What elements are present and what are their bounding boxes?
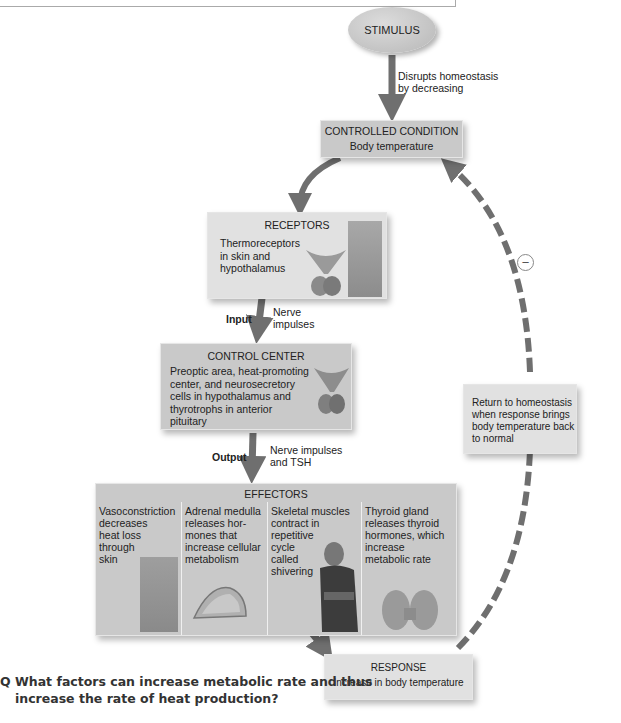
- question-marker: Q: [0, 673, 15, 690]
- controlled-condition-text: Body temperature: [321, 140, 462, 152]
- receptors-text: Thermoreceptors in skin and hypothalamus: [220, 237, 300, 275]
- control-center-text: Preoptic area, heat-promoting center, an…: [170, 365, 309, 428]
- feedback-box: Return to homeostasis when response brin…: [463, 384, 577, 454]
- response-title: RESPONSE: [325, 662, 472, 673]
- shivering-person-image: [316, 540, 360, 632]
- feedback-text: Return to homeostasis when response brin…: [472, 397, 574, 445]
- pituitary-image: [304, 248, 349, 298]
- effectors-box: EFFECTORS Vasoconstriction decreases hea…: [95, 483, 457, 636]
- control-center-title: CONTROL CENTER: [161, 350, 351, 362]
- effector-vasoconstriction: Vasoconstriction decreases heat loss thr…: [96, 502, 181, 635]
- controlled-condition-title: CONTROLLED CONDITION: [321, 125, 462, 137]
- skin-image: [140, 557, 178, 632]
- controlled-condition-box: CONTROLLED CONDITION Body temperature: [320, 120, 463, 158]
- arrow-condition-to-receptors: [300, 158, 340, 205]
- output-label: Output: [212, 451, 246, 463]
- control-center-box: CONTROL CENTER Preoptic area, heat-promo…: [160, 343, 352, 430]
- effector-thyroid-gland: Thyroid gland releases thyroid hormones,…: [362, 502, 457, 635]
- input-arrow-text: Nerve impulses: [273, 306, 314, 330]
- receptors-box: RECEPTORS Thermoreceptors in skin and hy…: [207, 212, 387, 299]
- arrow-output: [252, 433, 253, 470]
- negative-feedback-icon: −: [517, 254, 534, 271]
- output-arrow-text: Nerve impulses and TSH: [270, 444, 342, 468]
- thyroid-image: [380, 586, 440, 634]
- pituitary-image: [313, 366, 351, 416]
- input-label: Input: [226, 313, 252, 325]
- effector-adrenal-medulla: Adrenal medulla releases hor- mones that…: [182, 502, 267, 635]
- stimulus-arrow-label: Disrupts homeostasis by decreasing: [398, 70, 498, 94]
- adrenal-image: [190, 582, 250, 622]
- skin-image: [348, 221, 382, 297]
- question-text: QWhat factors can increase metabolic rat…: [0, 673, 372, 707]
- effectors-title: EFFECTORS: [96, 488, 456, 500]
- arrow-input: [258, 298, 262, 330]
- stimulus-node: STIMULUS: [348, 7, 436, 53]
- effector-skeletal-muscles: Skeletal muscles contract in repetitive …: [268, 502, 361, 635]
- stimulus-label: STIMULUS: [364, 24, 420, 36]
